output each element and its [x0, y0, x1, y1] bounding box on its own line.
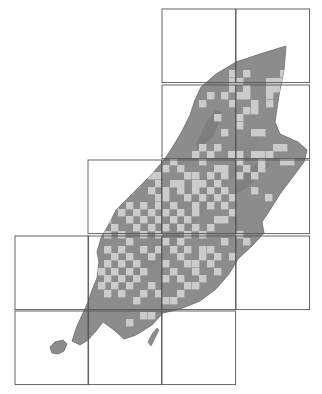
record-square — [236, 122, 243, 129]
record-square — [148, 172, 155, 179]
record-square — [243, 92, 250, 99]
langness-peninsula — [148, 328, 159, 346]
record-square — [126, 238, 133, 245]
record-square — [118, 231, 125, 238]
record-square — [214, 216, 221, 223]
record-square — [177, 165, 184, 172]
record-square — [148, 312, 155, 319]
record-square — [170, 246, 177, 253]
record-square — [221, 202, 228, 209]
record-square — [287, 158, 294, 165]
record-square — [243, 85, 250, 92]
record-square — [162, 224, 169, 231]
record-square — [258, 165, 265, 172]
record-square — [207, 202, 214, 209]
record-square — [177, 290, 184, 297]
record-square — [192, 282, 199, 289]
record-square — [170, 158, 177, 165]
record-square — [236, 92, 243, 99]
calf-of-man-islet — [50, 340, 67, 354]
record-square — [236, 158, 243, 165]
record-square — [177, 275, 184, 282]
record-square — [133, 209, 140, 216]
record-square — [273, 144, 280, 151]
record-square — [266, 85, 273, 92]
record-square — [266, 78, 273, 85]
map-canvas — [0, 0, 322, 394]
record-square — [199, 253, 206, 260]
record-square — [265, 194, 272, 201]
record-square — [104, 246, 111, 253]
record-square — [162, 165, 169, 172]
record-square — [280, 70, 287, 77]
record-square — [104, 290, 111, 297]
record-square — [177, 238, 184, 245]
record-square — [133, 260, 140, 267]
record-square — [111, 224, 118, 231]
record-square — [118, 290, 125, 297]
record-square — [258, 151, 265, 158]
record-square — [126, 319, 133, 326]
record-square — [184, 194, 191, 201]
record-square — [111, 268, 118, 275]
record-square — [192, 172, 199, 179]
record-square — [126, 268, 133, 275]
record-square — [184, 282, 191, 289]
record-square — [148, 253, 155, 260]
record-square — [140, 312, 147, 319]
record-square — [266, 151, 273, 158]
record-square — [273, 78, 280, 85]
record-square — [266, 92, 273, 99]
record-square — [251, 107, 258, 114]
record-square — [148, 224, 155, 231]
record-square — [111, 282, 118, 289]
record-square — [177, 224, 184, 231]
distribution-map: Isle of Man distribution map — [0, 0, 322, 394]
record-square — [177, 187, 184, 194]
record-square — [214, 144, 221, 151]
record-square — [184, 231, 191, 238]
record-square — [243, 70, 250, 77]
record-square — [199, 246, 206, 253]
record-square — [228, 151, 235, 158]
record-square — [251, 172, 258, 179]
record-square — [118, 246, 125, 253]
record-square — [207, 224, 214, 231]
record-square — [126, 282, 133, 289]
record-square — [184, 216, 191, 223]
record-square — [214, 268, 221, 275]
record-square — [243, 107, 250, 114]
record-square — [251, 100, 258, 107]
record-square — [192, 187, 199, 194]
record-square — [258, 158, 265, 165]
record-square — [140, 246, 147, 253]
record-square — [111, 253, 118, 260]
record-square — [118, 209, 125, 216]
record-square — [221, 92, 228, 99]
record-square — [133, 297, 140, 304]
record-square — [98, 282, 105, 289]
record-square — [199, 194, 206, 201]
record-square — [207, 260, 214, 267]
record-square — [140, 231, 147, 238]
record-square — [199, 158, 206, 165]
record-square — [162, 209, 169, 216]
record-square — [148, 187, 155, 194]
record-square — [221, 216, 228, 223]
record-square — [221, 165, 228, 172]
record-square — [221, 238, 228, 245]
record-square — [162, 297, 169, 304]
record-square — [221, 172, 228, 179]
record-square — [104, 231, 111, 238]
record-square — [118, 260, 125, 267]
record-square — [192, 260, 199, 267]
record-square — [104, 275, 111, 282]
record-square — [192, 224, 199, 231]
record-square — [273, 85, 280, 92]
record-square — [192, 180, 199, 187]
record-square — [126, 253, 133, 260]
record-square — [126, 202, 133, 209]
record-square — [170, 297, 177, 304]
record-square — [177, 253, 184, 260]
record-square — [170, 216, 177, 223]
